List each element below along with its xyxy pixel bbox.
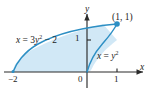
label-left-curve-tail: − 2	[42, 35, 57, 45]
label-axis-y: y	[85, 5, 89, 15]
label-x-tick-origin: 0	[78, 75, 83, 84]
label-left-curve-equals: =	[20, 35, 30, 45]
endpoint-marker-neg2	[12, 70, 15, 73]
label-axis-x: x	[140, 63, 144, 73]
label-left-curve-equation: x = 3y2 − 2	[16, 36, 57, 46]
label-right-curve-exponent: 2	[116, 50, 119, 56]
label-x-tick-1: 1	[114, 75, 119, 84]
label-y-tick-1: 1	[75, 34, 80, 43]
label-right-curve-equation: x = y2	[97, 52, 118, 62]
label-intersection-point: (1, 1)	[112, 13, 133, 23]
figure-region-between-curves: x = 3y2 − 2 x = y2 (1, 1) y x −2 0 1 1	[0, 0, 152, 93]
label-x-tick-neg2: −2	[8, 75, 18, 84]
shaded-region	[13, 24, 117, 72]
label-right-curve-equals: =	[101, 51, 111, 61]
y-axis-arrow-icon	[84, 14, 89, 21]
